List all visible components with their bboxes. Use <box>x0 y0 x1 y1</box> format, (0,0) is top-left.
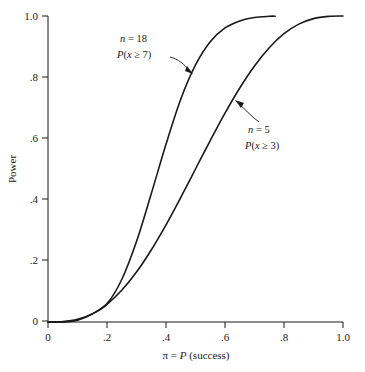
x-tick-label: .4 <box>162 331 171 343</box>
power-curve-n18 <box>48 16 275 322</box>
y-tick-label: .6 <box>30 132 39 144</box>
curves-group <box>48 16 343 322</box>
annotation-n18-line1: n = 18 <box>120 33 147 44</box>
x-tick-label: 1.0 <box>336 331 350 343</box>
annotation-n18-line2: P(x ≥ 7) <box>116 49 152 61</box>
y-axis-ticks: 1.0 .8 .6 .4 .2 0 <box>24 10 48 327</box>
annotation-n5-line2: P(x ≥ 3) <box>244 140 280 152</box>
y-tick-label: .8 <box>30 71 39 83</box>
annotation-n5: n = 5 P(x ≥ 3) <box>235 100 280 152</box>
power-curve-figure: 1.0 .8 .6 .4 .2 0 0 .2 .4 .6 .8 <box>0 0 365 372</box>
power-curve-n5 <box>48 16 343 322</box>
x-axis-ticks: 0 .2 .4 .6 .8 1.0 <box>45 322 350 343</box>
x-tick-label: .6 <box>221 331 230 343</box>
y-tick-label: .2 <box>30 254 38 266</box>
chart-canvas: 1.0 .8 .6 .4 .2 0 0 .2 .4 .6 .8 <box>0 0 365 372</box>
x-tick-label: .2 <box>103 331 111 343</box>
y-axis-title: Power <box>6 155 18 183</box>
y-tick-label: 0 <box>33 315 39 327</box>
y-tick-label: .4 <box>30 193 39 205</box>
annotation-n5-leader-line <box>239 104 259 122</box>
x-axis-title: π = P (success) <box>162 349 229 362</box>
x-tick-label: 0 <box>45 331 51 343</box>
annotation-n5-line1: n = 5 <box>248 124 270 135</box>
y-tick-label: 1.0 <box>24 10 38 22</box>
x-tick-label: .8 <box>280 331 289 343</box>
annotation-n18: n = 18 P(x ≥ 7) <box>116 33 193 74</box>
